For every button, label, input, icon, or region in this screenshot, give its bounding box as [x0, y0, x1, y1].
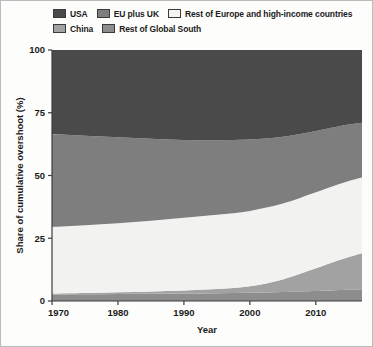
stacked-area-chart: 0255075100 19701980199020002010 Share of…	[1, 1, 373, 347]
y-tick-label-75: 75	[34, 107, 45, 118]
x-tick-label-2000: 2000	[239, 307, 260, 318]
y-tick-label-25: 25	[34, 233, 45, 244]
figure-container: USA EU plus UK Rest of Europe and high-i…	[0, 0, 373, 347]
x-tick-label-1980: 1980	[107, 307, 128, 318]
x-tick-label-1970: 1970	[48, 307, 69, 318]
y-axis-title: Share of cumulative overshoot (%)	[14, 97, 25, 253]
x-axis-ticks: 19701980199020002010	[48, 301, 326, 318]
y-tick-label-0: 0	[40, 295, 45, 306]
area-series-group	[52, 50, 362, 301]
x-tick-label-2010: 2010	[305, 307, 326, 318]
y-tick-label-50: 50	[34, 170, 45, 181]
x-tick-label-1990: 1990	[173, 307, 194, 318]
area-usa	[52, 50, 362, 140]
plot-area: 0255075100 19701980199020002010 Share of…	[1, 1, 373, 347]
y-axis-ticks: 0255075100	[29, 44, 52, 306]
y-tick-label-100: 100	[29, 44, 45, 55]
x-axis-title: Year	[197, 324, 217, 335]
